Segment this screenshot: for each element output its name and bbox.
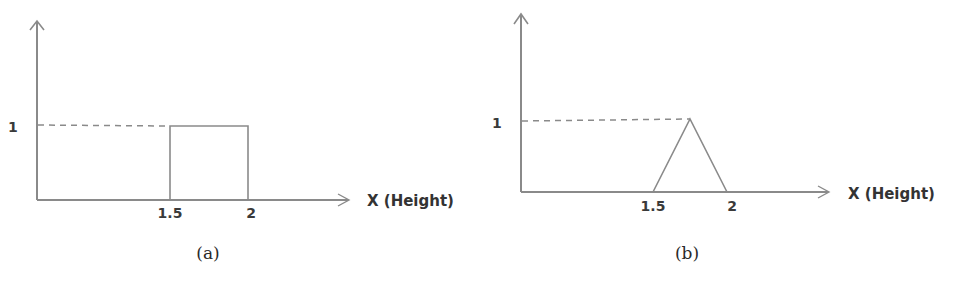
x-tick-label-a-2: 2 [246,205,256,221]
figure-canvas: 1 1.5 2 X (Height) (a) 1 1.5 2 X (Height… [0,0,957,281]
dashed-level-line-b [522,119,690,121]
x-axis-label-a: X (Height) [367,192,454,210]
caption-b: (b) [675,243,699,263]
rectangle-membership-shape [170,126,248,200]
x-tick-label-a-1: 1.5 [158,205,183,221]
y-tick-label-a: 1 [8,119,18,135]
x-axis-label-b: X (Height) [848,185,935,203]
x-tick-label-b-1: 1.5 [641,198,666,214]
y-tick-label-b: 1 [492,115,502,131]
caption-a: (a) [196,243,219,263]
panel-a: 1 1.5 2 X (Height) (a) [8,21,454,263]
panel-b: 1 1.5 2 X (Height) (b) [492,14,935,263]
triangle-membership-shape [653,119,727,192]
x-tick-label-b-2: 2 [727,198,737,214]
dashed-level-line-a [38,125,170,126]
